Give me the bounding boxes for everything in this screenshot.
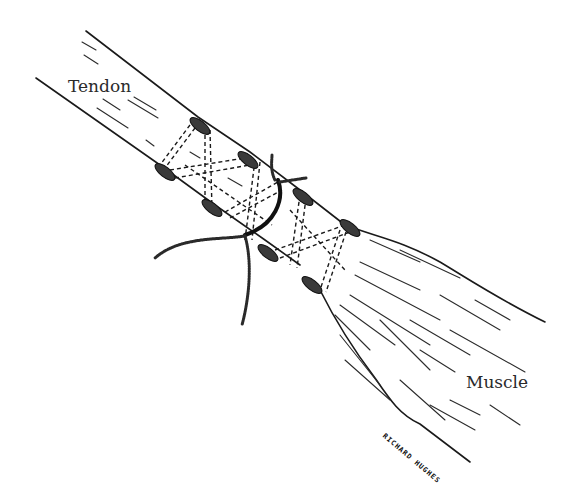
muscle-fibers	[335, 240, 525, 430]
tendon-label: Tendon	[68, 76, 131, 96]
internal-suture-paths	[160, 125, 350, 292]
muscle-lower-edge	[320, 290, 470, 462]
suture-thread-ends	[155, 155, 306, 325]
muscle-label: Muscle	[466, 372, 528, 392]
suture-illustration: Tendon Muscle RICHARD HUGHES	[0, 0, 574, 500]
muscle-upper-edge	[345, 225, 545, 322]
illustration-drawing	[0, 0, 574, 500]
